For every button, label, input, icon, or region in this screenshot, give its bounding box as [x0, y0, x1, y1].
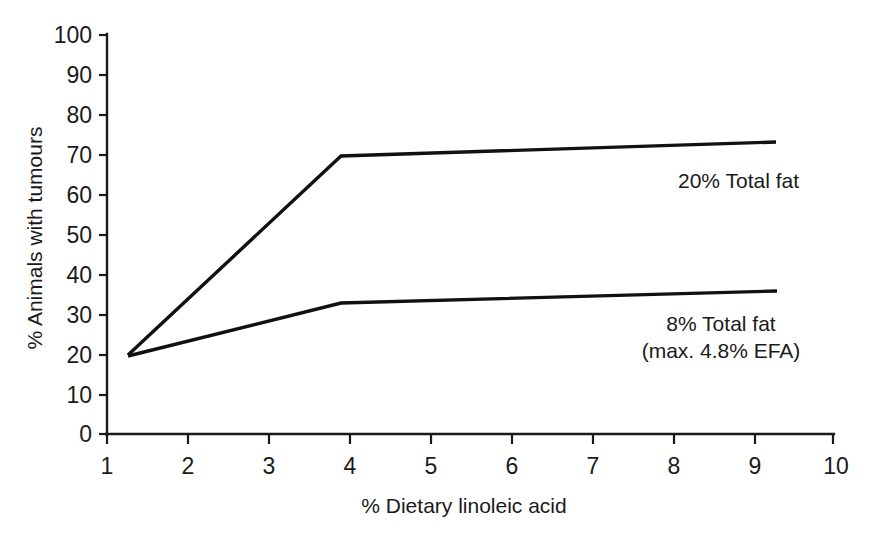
x-tick-label-5: 5 [425, 453, 438, 479]
x-tick-label-7: 7 [587, 453, 600, 479]
y-tick-label-30: 30 [66, 302, 92, 328]
x-tick-label-9: 9 [749, 453, 762, 479]
series-annotation-8-percent-total-fat-line1: 8% Total fat [666, 312, 776, 335]
x-axis-title: % Dietary linoleic acid [361, 494, 566, 517]
x-tick-label-10: 10 [823, 453, 849, 479]
y-tick-label-60: 60 [66, 182, 92, 208]
x-tick-label-8: 8 [668, 453, 681, 479]
line-chart-canvas: 100 90 80 70 60 50 40 30 20 10 0 1 2 3 4… [0, 0, 883, 541]
x-tick-label-1: 1 [101, 453, 114, 479]
y-tick-label-70: 70 [66, 142, 92, 168]
y-tick-label-10: 10 [66, 382, 92, 408]
series-annotation-8-percent-total-fat-line2: (max. 4.8% EFA) [642, 339, 801, 362]
x-tick-label-6: 6 [506, 453, 519, 479]
y-tick-label-40: 40 [66, 262, 92, 288]
x-tick-label-4: 4 [344, 453, 357, 479]
chart-figure: 100 90 80 70 60 50 40 30 20 10 0 1 2 3 4… [0, 0, 883, 541]
y-tick-label-50: 50 [66, 222, 92, 248]
x-tick-label-3: 3 [263, 453, 276, 479]
series-annotation-20-percent-total-fat: 20% Total fat [678, 169, 799, 192]
x-axis-ticks [107, 434, 833, 444]
y-tick-label-100: 100 [54, 22, 92, 48]
y-tick-label-0: 0 [79, 421, 92, 447]
x-tick-label-2: 2 [182, 453, 195, 479]
y-tick-label-20: 20 [66, 342, 92, 368]
y-tick-label-80: 80 [66, 102, 92, 128]
y-axis-title: % Animals with tumours [23, 127, 46, 350]
y-tick-label-90: 90 [66, 62, 92, 88]
